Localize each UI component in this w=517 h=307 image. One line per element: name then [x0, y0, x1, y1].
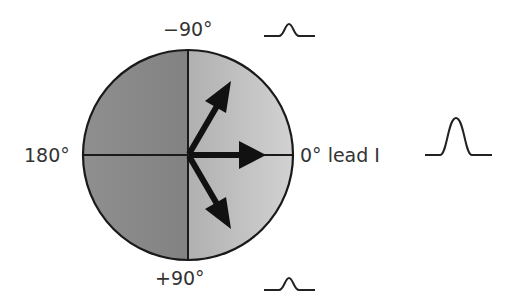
axis-diagram: −90° 180° 0° lead I +90°	[0, 0, 517, 307]
small-deflection-waveform-top-icon	[264, 24, 315, 36]
large-deflection-waveform-right-icon	[425, 118, 492, 155]
label-minus-90: −90°	[163, 20, 213, 39]
label-0-lead-i: 0° lead I	[300, 146, 380, 165]
small-deflection-waveform-bottom-icon	[264, 278, 315, 290]
label-plus-90: +90°	[155, 269, 205, 288]
diagram-svg	[0, 0, 517, 307]
label-180: 180°	[24, 146, 70, 165]
